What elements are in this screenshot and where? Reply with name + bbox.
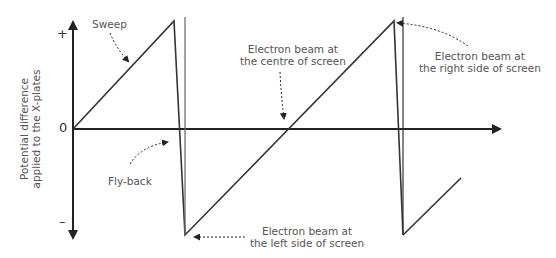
right-label-line1: Electron beam at bbox=[419, 50, 541, 62]
flyback-label: Fly-back bbox=[108, 175, 152, 187]
left-label-line2: the left side of screen bbox=[250, 237, 364, 249]
right-label-line2: the right side of screen bbox=[419, 62, 541, 74]
left-label-line1: Electron beam at bbox=[250, 225, 364, 237]
y-axis-label-line2: applied to the X-plates bbox=[30, 69, 42, 188]
sweep-partial bbox=[403, 178, 461, 235]
y-axis-label: Potential difference applied to the X-pl… bbox=[18, 69, 42, 188]
sawtooth-diagram bbox=[0, 0, 556, 258]
right-arrow bbox=[398, 23, 468, 46]
plus-tick: + bbox=[57, 26, 68, 41]
zero-tick: 0 bbox=[59, 120, 67, 135]
sweep-label: Sweep bbox=[92, 18, 127, 30]
y-axis-label-line1: Potential difference bbox=[18, 69, 30, 188]
centre-label: Electron beam at the centre of screen bbox=[240, 43, 346, 67]
centre-label-line1: Electron beam at bbox=[240, 43, 346, 55]
flyback-arrow bbox=[130, 142, 167, 164]
sweep-arrow bbox=[110, 33, 128, 61]
right-label: Electron beam at the right side of scree… bbox=[419, 50, 541, 74]
centre-arrow bbox=[280, 72, 284, 118]
minus-tick: – bbox=[59, 214, 66, 229]
centre-label-line2: the centre of screen bbox=[240, 55, 346, 67]
left-label: Electron beam at the left side of screen bbox=[250, 225, 364, 249]
